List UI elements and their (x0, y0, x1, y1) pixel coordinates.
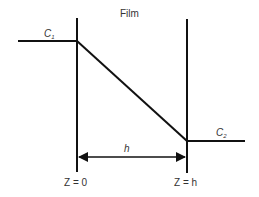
concentration-gradient-line (77, 41, 187, 141)
zh-label: Z = h (174, 177, 197, 188)
c2-label: C2 (216, 127, 227, 139)
film-title: Film (120, 8, 139, 19)
z0-label: Z = 0 (64, 177, 88, 188)
c1-label: C1 (44, 28, 55, 40)
thickness-label: h (124, 143, 130, 154)
diagram-svg: Film C1 C2 h Z = 0 Z = h (0, 0, 259, 197)
film-diffusion-diagram: Film C1 C2 h Z = 0 Z = h (0, 0, 259, 197)
